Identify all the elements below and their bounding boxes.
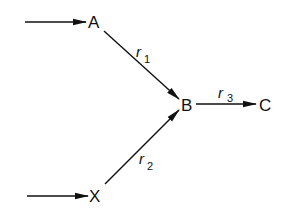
edge-a-to-b <box>104 31 179 99</box>
node-a: A <box>88 13 100 32</box>
label-r2: r 2 <box>139 150 153 172</box>
node-b: B <box>181 96 192 115</box>
edge-x-to-b <box>105 110 179 184</box>
node-x: X <box>89 187 100 206</box>
svg-text:1: 1 <box>144 53 150 65</box>
label-r3: r 3 <box>218 84 233 104</box>
svg-text:r: r <box>136 43 142 60</box>
svg-text:3: 3 <box>227 92 233 104</box>
svg-text:r: r <box>139 150 145 167</box>
svg-text:r: r <box>218 84 224 101</box>
reaction-diagram: A r 1 B r 3 C r 2 X <box>0 0 291 215</box>
node-c: C <box>259 96 271 115</box>
svg-text:2: 2 <box>147 160 153 172</box>
